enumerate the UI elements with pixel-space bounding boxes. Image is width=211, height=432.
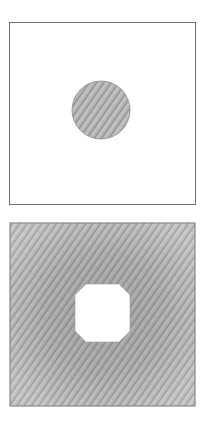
sketch-canvas [0, 0, 211, 432]
top-panel [10, 23, 196, 205]
circle-crosshatch [72, 81, 130, 139]
white-octagon [75, 284, 130, 342]
bottom-panel [10, 223, 195, 406]
